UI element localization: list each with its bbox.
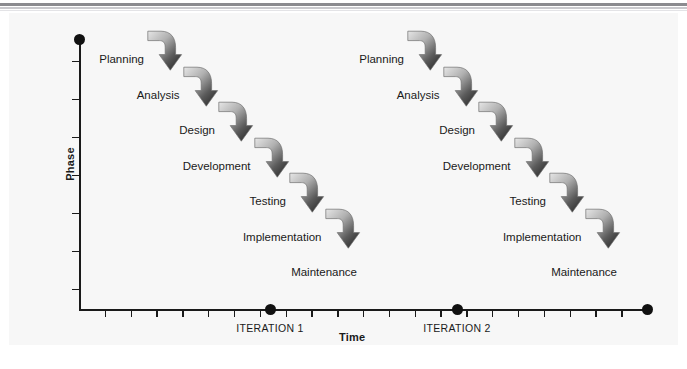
y-axis-tick — [72, 213, 79, 214]
phase-transition-arrow-icon — [183, 66, 223, 106]
phase-transition-arrow-icon — [218, 101, 258, 141]
phase-step-label: Design — [179, 124, 215, 137]
phase-transition-arrow-icon — [325, 208, 365, 248]
x-axis-tick — [466, 310, 467, 317]
x-axis-tick — [311, 310, 312, 317]
phase-step-maintenance[interactable]: Maintenance — [356, 278, 357, 279]
phase-step-label: Planning — [359, 53, 404, 66]
iteration-marker-dot-2 — [452, 304, 463, 315]
x-axis-tick — [260, 310, 261, 317]
phase-step-design[interactable]: Design — [214, 136, 215, 137]
phase-transition-arrow-icon — [289, 172, 329, 212]
phase-transition-arrow-icon — [514, 137, 554, 177]
phase-transition-arrow-icon — [478, 101, 518, 141]
phase-transition-arrow-icon — [254, 137, 294, 177]
phase-transition-arrow-glyph — [183, 66, 223, 108]
phase-step-label: Implementation — [503, 231, 582, 244]
phase-step-label: Development — [443, 160, 511, 173]
phase-transition-arrow-glyph — [549, 172, 589, 214]
x-axis-tick — [208, 310, 209, 317]
phase-transition-arrow-glyph — [478, 101, 518, 143]
phase-step-label: Implementation — [243, 231, 322, 244]
phase-transition-arrow-glyph — [325, 208, 365, 250]
phase-step-development[interactable]: Development — [510, 172, 511, 173]
y-axis-tick — [72, 137, 79, 138]
x-axis-tick — [363, 310, 364, 317]
x-axis-tick — [337, 310, 338, 317]
phase-step-analysis[interactable]: Analysis — [179, 101, 180, 102]
x-axis-tick — [389, 310, 390, 317]
phase-step-label: Development — [183, 160, 251, 173]
phase-transition-arrow-glyph — [514, 137, 554, 179]
phase-step-planning[interactable]: Planning — [143, 65, 144, 66]
phase-transition-arrow-glyph — [443, 66, 483, 108]
phase-transition-arrow-icon — [147, 30, 187, 70]
x-axis-tick — [518, 310, 519, 317]
x-axis-tick — [440, 310, 441, 317]
x-axis-tick — [131, 310, 132, 317]
y-axis-tick — [72, 99, 79, 100]
x-axis-tick — [621, 310, 622, 317]
phase-step-development[interactable]: Development — [250, 172, 251, 173]
phase-transition-arrow-glyph — [585, 208, 625, 250]
phase-step-label: Planning — [99, 53, 144, 66]
phase-step-planning[interactable]: Planning — [403, 65, 404, 66]
x-axis-tick — [492, 310, 493, 317]
plot-panel: Phase Time ITERATION 1ITERATION 2 Planni… — [9, 13, 678, 345]
y-axis-end-dot — [74, 34, 85, 45]
phase-transition-arrow-glyph — [254, 137, 294, 179]
phase-step-label: Design — [439, 124, 475, 137]
phase-step-design[interactable]: Design — [474, 136, 475, 137]
y-axis-tick — [72, 289, 79, 290]
phase-step-label: Maintenance — [291, 266, 357, 279]
x-axis-tick — [286, 310, 287, 317]
y-axis-line — [79, 39, 81, 310]
y-axis-tick — [72, 251, 79, 252]
phase-transition-arrow-glyph — [407, 30, 447, 72]
x-axis-tick — [415, 310, 416, 317]
phase-step-maintenance[interactable]: Maintenance — [616, 278, 617, 279]
phase-transition-arrow-icon — [585, 208, 625, 248]
x-axis-tick — [105, 310, 106, 317]
iteration-label-1: ITERATION 1 — [236, 322, 303, 334]
x-axis-tick — [595, 310, 596, 317]
phase-step-analysis[interactable]: Analysis — [439, 101, 440, 102]
phase-transition-arrow-glyph — [218, 101, 258, 143]
phase-step-label: Analysis — [137, 89, 180, 102]
phase-step-testing[interactable]: Testing — [545, 207, 546, 208]
x-axis-tick — [156, 310, 157, 317]
phase-step-label: Maintenance — [551, 266, 617, 279]
top-rule-dark — [0, 3, 687, 6]
phase-step-label: Testing — [250, 195, 286, 208]
phase-step-implementation[interactable]: Implementation — [581, 243, 582, 244]
iteration-marker-dot-1 — [265, 304, 276, 315]
phase-transition-arrow-glyph — [147, 30, 187, 72]
x-axis-title: Time — [339, 331, 365, 343]
figure-canvas: Phase Time ITERATION 1ITERATION 2 Planni… — [0, 0, 687, 369]
x-axis-tick — [182, 310, 183, 317]
y-axis-title: Phase — [64, 147, 76, 180]
phase-step-label: Testing — [510, 195, 546, 208]
phase-step-implementation[interactable]: Implementation — [321, 243, 322, 244]
x-axis-tick — [544, 310, 545, 317]
phase-transition-arrow-icon — [443, 66, 483, 106]
top-rule-thin — [0, 10, 687, 11]
phase-transition-arrow-icon — [407, 30, 447, 70]
y-axis-tick — [72, 61, 79, 62]
phase-step-testing[interactable]: Testing — [285, 207, 286, 208]
x-axis-tick — [570, 310, 571, 317]
top-rule-light — [0, 7, 687, 9]
phase-transition-arrow-glyph — [289, 172, 329, 214]
x-axis-tick — [234, 310, 235, 317]
phase-step-label: Analysis — [397, 89, 440, 102]
x-axis-end-dot — [642, 304, 653, 315]
iteration-label-2: ITERATION 2 — [423, 322, 490, 334]
phase-transition-arrow-icon — [549, 172, 589, 212]
